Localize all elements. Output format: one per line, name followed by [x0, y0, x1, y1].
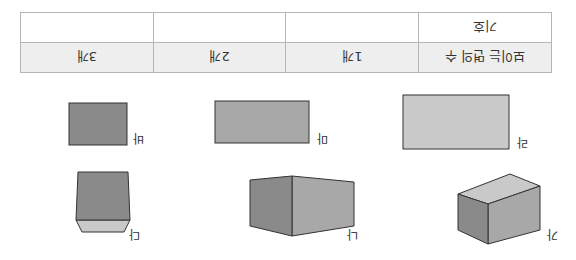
header-symbol: 기호	[419, 13, 552, 43]
table-row-faces: 보이는 면의 수 1개 2개 3개	[21, 43, 552, 73]
shape-ra-rect-1-face	[398, 90, 510, 150]
answer-cell-3[interactable]	[21, 13, 154, 43]
cell-3-faces: 3개	[21, 43, 154, 73]
shape-label-na: 나	[347, 227, 358, 244]
shape-da-box-2-faces	[64, 156, 134, 236]
table-row-symbol: 기호	[21, 13, 552, 43]
shape-label-ma: 마	[317, 131, 328, 148]
shape-ga-box-3-faces	[426, 168, 546, 248]
diagram-stage: 보이는 면의 수 1개 2개 3개 기호 가 나	[0, 0, 576, 260]
answer-cell-2[interactable]	[153, 13, 286, 43]
shape-ma-rect-1-face	[210, 96, 310, 144]
cell-2-faces: 2개	[153, 43, 286, 73]
shape-label-ba: 바	[133, 131, 144, 148]
shape-label-ra: 라	[517, 135, 528, 152]
shape-label-da: 다	[129, 227, 140, 244]
cell-1-face: 1개	[286, 43, 419, 73]
faces-table: 보이는 면의 수 1개 2개 3개 기호	[20, 12, 552, 73]
shape-na-box-2-faces	[228, 165, 358, 240]
shape-ba-rect-1-face	[64, 98, 128, 146]
header-visible-faces: 보이는 면의 수	[419, 43, 552, 73]
shape-label-ga: 가	[547, 227, 558, 244]
answer-cell-1[interactable]	[286, 13, 419, 43]
